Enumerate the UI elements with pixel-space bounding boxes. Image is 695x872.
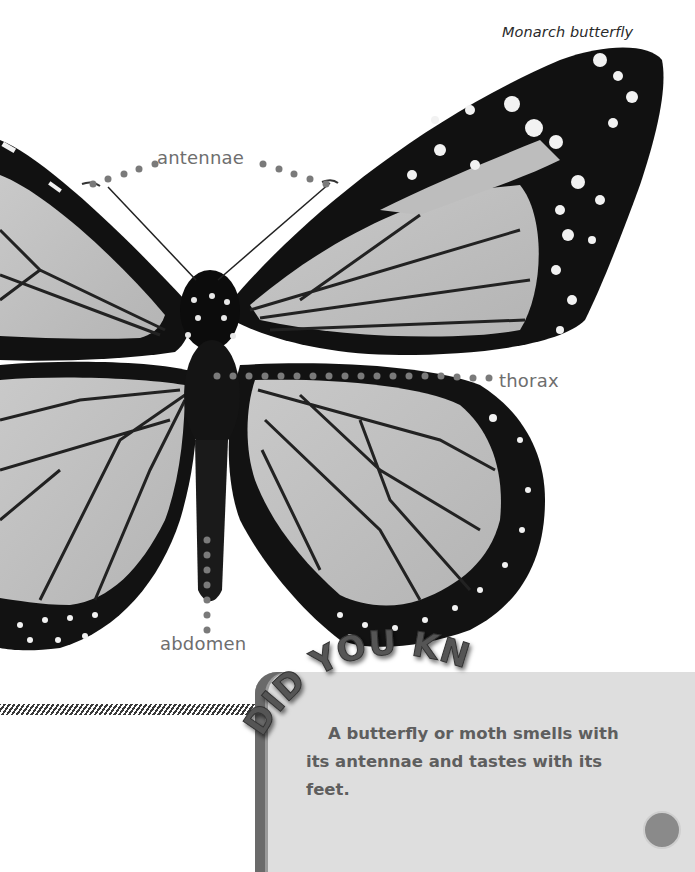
page-corner-tab-icon — [643, 811, 681, 849]
hatched-divider — [0, 704, 262, 715]
right-hindwing — [229, 363, 545, 647]
figure-caption: Monarch butterfly — [502, 24, 633, 40]
left-hindwing — [0, 362, 197, 650]
right-forewing — [232, 48, 663, 355]
label-thorax: thorax — [499, 370, 559, 391]
label-antennae: antennae — [157, 147, 244, 168]
label-abdomen: abdomen — [160, 633, 246, 654]
left-forewing — [0, 140, 190, 361]
fact-text: A butterfly or moth smells with its ante… — [306, 720, 636, 804]
